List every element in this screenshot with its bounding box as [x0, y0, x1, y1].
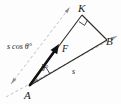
vector-diagram: A K B F θ° s cos θ° s [0, 0, 121, 104]
vector-label-f: F [61, 43, 69, 54]
right-angle-marker-k [79, 20, 88, 26]
vertex-label-k: K [77, 2, 86, 14]
angle-label-theta: θ° [41, 64, 49, 73]
measure-label-s-cos-theta: s cos θ° [7, 42, 33, 51]
figure-canvas: A K B F θ° s cos θ° s [0, 0, 121, 104]
guide-arrowhead-up [65, 7, 70, 13]
measure-label-s: s [72, 67, 75, 76]
edge-k-b [82, 15, 107, 40]
vertex-label-b: B [106, 35, 113, 47]
vertex-label-a: A [23, 89, 31, 101]
